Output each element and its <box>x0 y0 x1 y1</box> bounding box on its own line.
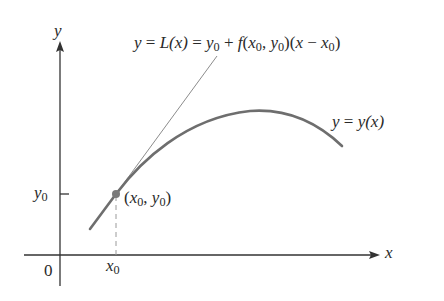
tf-x0-var: x <box>248 33 256 52</box>
x0-tick-label: x0 <box>106 257 120 277</box>
tf-paren3: ) <box>335 33 341 52</box>
tf-y0-var: y <box>206 33 214 52</box>
solution-curve <box>90 111 342 229</box>
tf-y: y <box>134 33 142 52</box>
curve-label-lhs: y <box>332 112 340 131</box>
tf-y0b-var: y <box>270 33 278 52</box>
y0-sub: 0 <box>42 190 48 204</box>
tf-eq1: = <box>142 33 160 52</box>
x0-sub: 0 <box>114 263 120 277</box>
tf-x0c-var: x <box>321 33 329 52</box>
tangent-point <box>112 190 120 198</box>
tf-plus: + <box>220 33 238 52</box>
y0-var: y <box>34 183 42 202</box>
origin-label: 0 <box>44 262 53 279</box>
tf-eq2: = <box>188 33 206 52</box>
point-label: (x0, y0) <box>124 189 171 209</box>
x0-var: x <box>106 256 114 275</box>
point-paren-close: ) <box>166 188 172 207</box>
curve-label: y = y(x) <box>332 113 384 130</box>
curve-label-rhs: y(x) <box>358 112 384 131</box>
x-axis-label: x <box>385 244 393 261</box>
tangent-formula-label: y = L(x) = y0 + f(x0, y0)(x − x0) <box>134 34 340 54</box>
tf-x: x <box>295 33 303 52</box>
tf-minus: − <box>303 33 321 52</box>
y-axis-label: y <box>54 22 62 39</box>
y0-tick-label: y0 <box>34 184 48 204</box>
point-sep: , <box>143 188 152 207</box>
tf-Lx: L(x) <box>160 33 188 52</box>
curve-label-eq: = <box>340 112 358 131</box>
tf-paren2: )( <box>284 33 295 52</box>
